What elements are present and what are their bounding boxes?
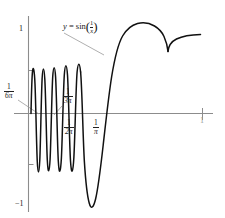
y-axis-label-one: 1: [19, 25, 23, 33]
equation-paren-close: ): [93, 19, 97, 34]
figure-sin-one-over-x: 1 −1 1 1 6π 1 3π 1 2π 1 π y = sin(: [0, 0, 225, 218]
tick-label-one-over-six-pi: 1 6π: [4, 83, 14, 100]
equation-sin: sin: [76, 21, 86, 31]
fraction-one-over-three-pi: 1 3π: [63, 88, 73, 105]
fraction-one-over-pi: 1 π: [93, 119, 99, 136]
leader-line-equation: [64, 33, 104, 55]
equation-y: y: [63, 21, 67, 31]
fraction-one-over-six-pi: 1 6π: [4, 83, 14, 100]
tick-label-one-over-two-pi: 1 2π: [64, 119, 74, 136]
y-axis-label-negative-one: −1: [15, 200, 24, 208]
plot-canvas: [0, 0, 225, 218]
curve-sin-one-over-x: [31, 23, 201, 207]
curve-equation-label: y = sin( 1 x ): [63, 19, 98, 35]
tick-label-one-over-three-pi: 1 3π: [63, 88, 73, 105]
x-axis-label-one: 1: [200, 117, 204, 125]
fraction-one-over-two-pi: 1 2π: [64, 119, 74, 136]
tick-label-one-over-pi: 1 π: [93, 119, 99, 136]
equation-equals: =: [69, 21, 74, 31]
